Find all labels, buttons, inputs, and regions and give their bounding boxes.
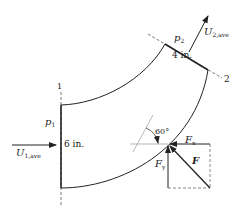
p1-subscript: 1 — [51, 121, 55, 128]
p1-label: p1 — [45, 117, 55, 128]
fy-label: Fy — [155, 159, 165, 170]
u1-subscript: 1,ave — [24, 152, 40, 159]
fx-label: Fx — [185, 135, 195, 146]
p2-subscript: 2 — [180, 37, 184, 44]
u2-subscript: 2,ave — [212, 31, 228, 38]
inlet-dimension: 6 in. — [64, 140, 84, 149]
fy-symbol: F — [155, 158, 162, 169]
angle-inclined-ref — [133, 115, 153, 152]
section-2-label: 2 — [224, 75, 230, 84]
section-1-label: 1 — [57, 83, 62, 91]
fx-symbol: F — [185, 134, 192, 145]
p2-label: p2 — [174, 33, 184, 44]
outlet-dimension: 4 in. — [172, 51, 192, 60]
fy-subscript: y — [162, 163, 165, 170]
f-label: F — [192, 156, 199, 166]
u1-label: U1,ave — [16, 148, 41, 159]
inner-wall — [61, 44, 165, 105]
u2-label: U2,ave — [204, 27, 229, 38]
f-resultant-arrow — [170, 146, 210, 188]
pipe-bend-diagram: 1 2 p1 p2 6 in. 4 in. U1,ave U2,ave 60° … — [0, 0, 240, 209]
angle-label: 60° — [155, 128, 169, 136]
outer-wall — [61, 70, 208, 188]
fx-subscript: x — [192, 139, 195, 146]
